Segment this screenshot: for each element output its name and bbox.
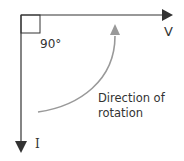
- rotation-label-line1: Direction of: [98, 93, 165, 105]
- right-angle-marker: [21, 15, 40, 33]
- angle-label: 90°: [40, 38, 61, 50]
- rotation-arrowhead-icon: [110, 24, 120, 35]
- v-axis-label: V: [164, 25, 173, 38]
- v-axis-arrow: [21, 9, 173, 21]
- diagram-graphics: [0, 0, 184, 161]
- i-arrowhead-icon: [15, 141, 27, 153]
- i-axis-label: I: [35, 138, 40, 150]
- phasor-diagram: 90° V I Direction of rotation: [0, 0, 184, 161]
- v-arrowhead-icon: [162, 9, 173, 21]
- rotation-label-line2: rotation: [98, 108, 143, 120]
- i-axis-arrow: [15, 15, 27, 153]
